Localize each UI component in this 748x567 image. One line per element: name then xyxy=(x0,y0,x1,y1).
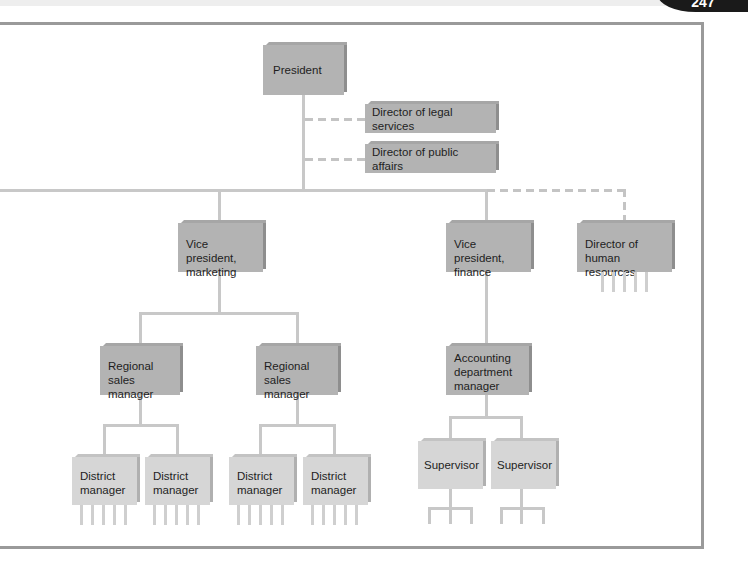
supervisor-1-leg-right xyxy=(470,507,473,524)
president-label: President xyxy=(273,63,322,77)
vp-marketing-box: Vice president, marketing xyxy=(178,223,263,272)
president-box: President xyxy=(263,45,344,95)
connector-main-horizontal xyxy=(0,189,487,192)
regional-1-line1: Regional xyxy=(108,359,174,373)
supervisor-2-label: Supervisor xyxy=(497,458,552,472)
district-4-subordinate-lines xyxy=(311,505,361,525)
district-2-subordinate-lines xyxy=(153,505,203,525)
district-1-line1: District xyxy=(80,469,131,483)
accounting-line1: Accounting xyxy=(454,351,523,365)
district-manager-box-3: District manager xyxy=(229,457,294,505)
vp-finance-box: Vice president, finance xyxy=(446,223,531,272)
dashed-connector-hr-horizontal xyxy=(487,189,625,192)
dashed-connector-hr-vertical xyxy=(623,189,626,223)
supervisor-1-leg-bar xyxy=(428,507,473,510)
connector-to-supervisor-2 xyxy=(520,416,523,441)
supervisor-1-leg-left xyxy=(428,507,431,524)
hr-subordinate-lines xyxy=(601,272,651,292)
accounting-line3: manager xyxy=(454,379,523,393)
district-manager-box-1: District manager xyxy=(72,457,137,505)
district-1-line2: manager xyxy=(80,483,131,497)
connector-to-vp-finance xyxy=(485,192,488,223)
connector-regional-horizontal xyxy=(139,312,298,315)
hr-director-line1: Director of xyxy=(585,237,666,251)
public-affairs-box: Director of public affairs xyxy=(365,144,496,173)
supervisor-2-leg-left xyxy=(500,507,503,524)
vp-marketing-line2: marketing xyxy=(186,265,257,279)
accounting-line2: department xyxy=(454,365,523,379)
regional-manager-box-1: Regional sales manager xyxy=(100,346,180,395)
page-number-tab: 247 xyxy=(658,0,748,12)
vp-finance-line2: finance xyxy=(454,265,525,279)
connector-to-vp-marketing xyxy=(218,192,221,223)
connector-accounting-down xyxy=(485,395,488,417)
district-manager-box-2: District manager xyxy=(145,457,210,505)
connector-to-district-2 xyxy=(176,424,179,457)
connector-supervisor-horizontal xyxy=(449,416,523,419)
district-1-subordinate-lines xyxy=(80,505,130,525)
district-2-line1: District xyxy=(153,469,204,483)
running-header-strip xyxy=(0,0,730,6)
legal-services-label: Director of legal services xyxy=(372,105,490,133)
supervisor-box-2: Supervisor xyxy=(491,441,556,489)
vp-finance-line1: Vice president, xyxy=(454,237,525,265)
connector-to-regional-2 xyxy=(296,312,299,346)
vp-marketing-line1: Vice president, xyxy=(186,237,257,265)
regional-1-line2: sales manager xyxy=(108,373,174,401)
connector-to-district-3 xyxy=(259,424,262,457)
connector-district-h-1 xyxy=(103,424,179,427)
connector-to-supervisor-1 xyxy=(449,416,452,441)
district-2-line2: manager xyxy=(153,483,204,497)
connector-vp-finance-down xyxy=(485,272,488,346)
hr-director-box: Director of human resources xyxy=(577,223,672,272)
regional-2-line1: Regional xyxy=(264,359,332,373)
accounting-manager-box: Accounting department manager xyxy=(446,346,529,395)
district-4-line1: District xyxy=(311,469,362,483)
legal-services-box: Director of legal services xyxy=(365,104,496,133)
connector-president-down xyxy=(302,95,305,192)
supervisor-2-leg-bar xyxy=(500,507,545,510)
dashed-connector-public xyxy=(305,158,365,161)
connector-to-district-1 xyxy=(103,424,106,457)
supervisor-2-leg-right xyxy=(542,507,545,524)
page-number: 247 xyxy=(691,0,714,10)
supervisor-1-label: Supervisor xyxy=(424,458,479,472)
public-affairs-label: Director of public affairs xyxy=(372,145,490,173)
district-3-line1: District xyxy=(237,469,288,483)
connector-district-h-2 xyxy=(259,424,336,427)
dashed-connector-legal xyxy=(305,118,365,121)
regional-manager-box-2: Regional sales manager xyxy=(256,346,338,395)
supervisor-box-1: Supervisor xyxy=(418,441,483,489)
connector-to-regional-1 xyxy=(139,312,142,346)
district-manager-box-4: District manager xyxy=(303,457,368,505)
district-3-line2: manager xyxy=(237,483,288,497)
district-4-line2: manager xyxy=(311,483,362,497)
connector-to-district-4 xyxy=(333,424,336,457)
district-3-subordinate-lines xyxy=(237,505,287,525)
regional-2-line2: sales manager xyxy=(264,373,332,401)
